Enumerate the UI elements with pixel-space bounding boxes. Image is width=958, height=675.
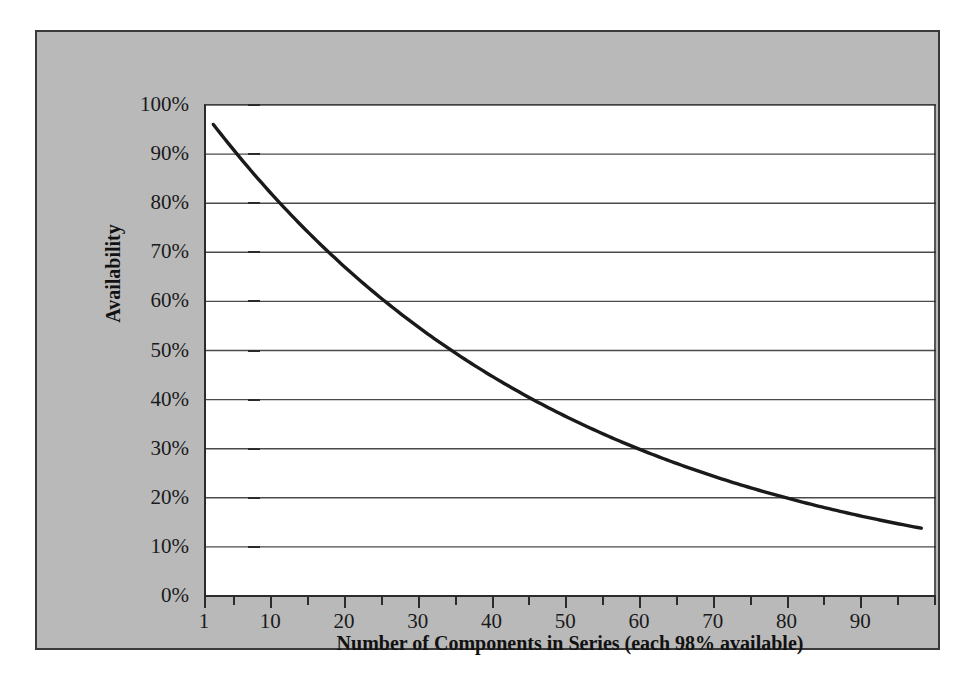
x-axis-tick-mark	[492, 597, 494, 608]
chart-panel: 0%10%20%30%40%50%60%70%80%90%100% 110203…	[35, 30, 940, 650]
y-axis-tick-mark	[248, 300, 260, 302]
x-axis-tick-label: 90	[830, 611, 890, 632]
y-axis-tick-label: 100%	[105, 94, 189, 115]
x-axis-minor-tick-mark	[676, 597, 678, 605]
x-axis-tick-label: 30	[388, 611, 448, 632]
x-axis-tick-mark	[344, 597, 346, 608]
x-axis-tick-label: 1	[174, 611, 234, 632]
x-axis-tick-label: 10	[240, 611, 300, 632]
y-axis-tick-label: 10%	[105, 535, 189, 556]
y-axis-tick-mark	[248, 104, 260, 106]
x-axis-tick-mark	[204, 597, 206, 608]
x-axis-tick-mark	[565, 597, 567, 608]
x-axis-tick-label: 50	[535, 611, 595, 632]
y-axis-tick-mark	[248, 251, 260, 253]
x-axis-minor-tick-mark	[934, 597, 936, 605]
x-axis-minor-tick-mark	[528, 597, 530, 605]
x-axis-tick-label: 80	[757, 611, 817, 632]
y-axis-tick-mark	[248, 546, 260, 548]
x-axis-tick-mark	[787, 597, 789, 608]
x-axis-minor-tick-mark	[307, 597, 309, 605]
x-axis-minor-tick-mark	[233, 597, 235, 605]
plot-area	[204, 104, 936, 596]
x-axis-tick-mark	[270, 597, 272, 608]
y-axis-tick-mark	[248, 448, 260, 450]
x-axis-tick-mark	[418, 597, 420, 608]
gridlines	[206, 105, 936, 547]
y-axis-tick-label: 40%	[105, 388, 189, 409]
y-axis-title: Availability	[102, 174, 125, 374]
x-axis-minor-tick-mark	[750, 597, 752, 605]
y-axis-tick-mark	[248, 497, 260, 499]
x-axis-minor-tick-mark	[602, 597, 604, 605]
y-axis-tick-label: 90%	[105, 143, 189, 164]
x-axis: 1102030405060708090	[204, 595, 936, 597]
y-axis-tick-mark	[248, 153, 260, 155]
x-axis-minor-tick-mark	[897, 597, 899, 605]
y-axis-tick-label: 30%	[105, 437, 189, 458]
x-axis-tick-mark	[860, 597, 862, 608]
x-axis-minor-tick-mark	[823, 597, 825, 605]
x-axis-tick-mark	[639, 597, 641, 608]
x-axis-title: Number of Components in Series (each 98%…	[204, 632, 936, 655]
x-axis-tick-label: 60	[609, 611, 669, 632]
x-axis-tick-label: 20	[314, 611, 374, 632]
availability-curve	[213, 124, 921, 528]
chart-figure: 0%10%20%30%40%50%60%70%80%90%100% 110203…	[0, 0, 958, 675]
x-axis-tick-mark	[713, 597, 715, 608]
y-axis-tick-mark	[248, 350, 260, 352]
y-axis-tick-label: 0%	[105, 585, 189, 606]
y-axis-tick-mark	[248, 202, 260, 204]
x-axis-tick-label: 40	[462, 611, 522, 632]
x-axis-tick-label: 70	[683, 611, 743, 632]
plot-svg	[206, 105, 936, 596]
y-axis-tick-mark	[248, 399, 260, 401]
x-axis-minor-tick-mark	[455, 597, 457, 605]
x-axis-minor-tick-mark	[381, 597, 383, 605]
y-axis-tick-label: 20%	[105, 486, 189, 507]
